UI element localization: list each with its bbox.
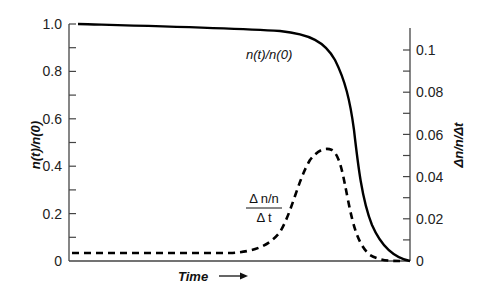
y-axis-title-left: n(t)/n(0) bbox=[28, 121, 43, 169]
right-tick-label: 0.06 bbox=[416, 127, 443, 143]
series-n-ratio-line bbox=[78, 24, 410, 261]
left-tick-label: 0 bbox=[54, 253, 62, 269]
left-tick-label: 0.8 bbox=[43, 63, 63, 79]
right-ticks bbox=[403, 50, 410, 240]
x-axis-title: Time bbox=[178, 269, 208, 284]
left-tick-label: 1.0 bbox=[43, 16, 63, 32]
left-ticks bbox=[69, 24, 76, 237]
chart: 0 0.2 0.4 0.6 0.8 1.0 0 0.02 0.04 0.06 0… bbox=[0, 0, 477, 295]
time-arrow-icon bbox=[219, 273, 248, 280]
right-tick-label: 0.04 bbox=[416, 169, 443, 185]
solid-curve-label: n(t)/n(0) bbox=[246, 47, 292, 62]
series-rate-line bbox=[72, 149, 400, 261]
left-tick-label: 0.2 bbox=[43, 206, 63, 222]
left-tick-label: 0.4 bbox=[43, 158, 63, 174]
right-tick-label: 0.02 bbox=[416, 211, 443, 227]
left-tick-label: 0.6 bbox=[43, 111, 63, 127]
right-tick-label: 0.1 bbox=[416, 42, 436, 58]
dashed-curve-label-denominator: Δ t bbox=[256, 210, 272, 225]
dashed-curve-label-numerator: Δ n/n bbox=[249, 191, 279, 206]
y-axis-title-right: Δn/n/Δt bbox=[451, 122, 466, 169]
right-tick-label: 0.08 bbox=[416, 84, 443, 100]
right-tick-label: 0 bbox=[416, 253, 424, 269]
